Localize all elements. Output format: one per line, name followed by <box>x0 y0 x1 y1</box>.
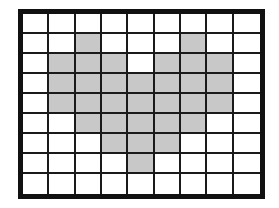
grid-cell-empty <box>181 14 207 34</box>
grid-cell-filled <box>49 74 75 94</box>
grid-cell-empty <box>207 114 233 134</box>
grid-cell-filled <box>49 54 75 74</box>
grid-cell-filled <box>102 94 128 114</box>
grid-cell-empty <box>49 14 75 34</box>
grid-cell-empty <box>207 14 233 34</box>
grid-cell-empty <box>128 174 154 194</box>
grid-cell-filled <box>102 134 128 154</box>
grid-cell-empty <box>155 14 181 34</box>
grid-cell-empty <box>23 94 49 114</box>
grid-cell-filled <box>181 94 207 114</box>
grid-cell-filled <box>181 54 207 74</box>
grid-cell-filled <box>155 94 181 114</box>
grid-cell-empty <box>155 174 181 194</box>
grid-cell-empty <box>128 14 154 34</box>
grid-cell-empty <box>76 134 102 154</box>
grid-cell-filled <box>181 74 207 94</box>
grid-cell-filled <box>128 114 154 134</box>
grid-cell-filled <box>76 54 102 74</box>
grid-cell-empty <box>23 114 49 134</box>
shaded-grid <box>23 14 260 194</box>
grid-cell-empty <box>23 174 49 194</box>
grid-cell-empty <box>23 74 49 94</box>
grid-cell-empty <box>181 134 207 154</box>
grid-cell-empty <box>234 94 260 114</box>
grid-cell-empty <box>234 114 260 134</box>
grid-cell-empty <box>207 174 233 194</box>
grid-cell-empty <box>23 154 49 174</box>
grid-cell-empty <box>23 34 49 54</box>
grid-cell-empty <box>49 34 75 54</box>
grid-cell-empty <box>155 34 181 54</box>
grid-cell-filled <box>128 154 154 174</box>
grid-cell-filled <box>207 54 233 74</box>
grid-cell-filled <box>155 54 181 74</box>
grid-cell-filled <box>207 94 233 114</box>
grid-cell-empty <box>155 154 181 174</box>
grid-cell-empty <box>102 154 128 174</box>
grid-cell-empty <box>234 154 260 174</box>
grid-cell-filled <box>128 94 154 114</box>
grid-cell-empty <box>49 174 75 194</box>
grid-cell-empty <box>128 34 154 54</box>
grid-cell-empty <box>234 14 260 34</box>
grid-cell-empty <box>181 154 207 174</box>
grid-cell-empty <box>234 134 260 154</box>
grid-cell-empty <box>234 34 260 54</box>
grid-cell-filled <box>207 74 233 94</box>
grid-cell-filled <box>181 114 207 134</box>
grid-cell-filled <box>102 74 128 94</box>
grid-cell-empty <box>23 14 49 34</box>
grid-cell-filled <box>76 114 102 134</box>
grid-cell-filled <box>76 94 102 114</box>
grid-cell-empty <box>76 174 102 194</box>
grid-cell-empty <box>76 14 102 34</box>
grid-cell-filled <box>76 34 102 54</box>
grid-cell-empty <box>76 154 102 174</box>
grid-cell-empty <box>49 134 75 154</box>
grid-cell-filled <box>76 74 102 94</box>
grid-cell-empty <box>234 174 260 194</box>
grid-frame <box>18 9 265 199</box>
grid-cell-filled <box>155 74 181 94</box>
grid-cell-empty <box>207 134 233 154</box>
grid-cell-empty <box>207 34 233 54</box>
grid-cell-empty <box>102 14 128 34</box>
grid-cell-empty <box>207 154 233 174</box>
grid-cell-empty <box>23 54 49 74</box>
grid-cell-empty <box>49 154 75 174</box>
grid-cell-filled <box>155 134 181 154</box>
grid-cell-empty <box>102 34 128 54</box>
grid-cell-empty <box>234 54 260 74</box>
grid-cell-empty <box>234 74 260 94</box>
grid-cell-filled <box>155 114 181 134</box>
grid-cell-empty <box>23 134 49 154</box>
grid-cell-filled <box>128 134 154 154</box>
grid-cell-empty <box>102 174 128 194</box>
grid-cell-empty <box>49 114 75 134</box>
grid-cell-filled <box>102 54 128 74</box>
grid-cell-empty <box>181 174 207 194</box>
grid-cell-filled <box>128 74 154 94</box>
grid-cell-filled <box>102 114 128 134</box>
grid-cell-empty <box>128 54 154 74</box>
grid-cell-filled <box>181 34 207 54</box>
grid-cell-filled <box>49 94 75 114</box>
